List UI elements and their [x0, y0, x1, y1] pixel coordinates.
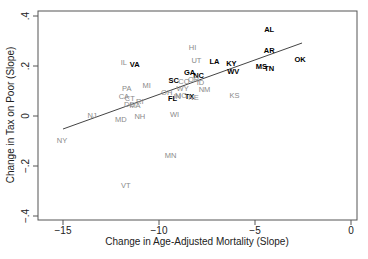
point-label-wi: WI	[170, 110, 179, 119]
point-label-ut: UT	[191, 56, 201, 65]
point-label-nm: NM	[199, 85, 211, 94]
point-label-nj: NJ	[87, 111, 96, 120]
y-axis: −.4−.20.2.4	[20, 11, 38, 223]
point-label-mi: MI	[143, 81, 151, 90]
point-label-oh: OH	[161, 88, 172, 97]
y-tick-label: .4	[20, 11, 31, 20]
point-label-ks: KS	[229, 91, 239, 100]
point-label-mo: MO	[175, 91, 187, 100]
point-label-ny: NY	[57, 136, 67, 145]
x-tick-label: 0	[348, 225, 354, 236]
y-tick-label: .2	[20, 61, 31, 70]
x-axis: −15−10−50	[55, 220, 355, 236]
point-label-il: IL	[121, 58, 127, 67]
point-label-al: AL	[264, 25, 274, 34]
x-tick-label: −10	[151, 225, 168, 236]
point-label-md: MD	[115, 115, 127, 124]
plot-frame	[38, 11, 357, 220]
point-label-ma: MA	[129, 101, 140, 110]
point-label-nh: NH	[134, 112, 145, 121]
x-axis-title: Change in Age-Adjusted Mortality (Slope)	[105, 236, 288, 247]
point-label-va: VA	[130, 60, 140, 69]
y-tick-label: 0	[20, 113, 31, 119]
point-label-hi: HI	[189, 43, 197, 52]
point-label-tn: TN	[264, 64, 274, 73]
point-label-mn: MN	[165, 151, 177, 160]
y-tick-label: −.4	[20, 208, 31, 223]
x-tick-label: −5	[249, 225, 261, 236]
point-label-vt: VT	[121, 181, 131, 190]
point-label-ar: AR	[264, 46, 275, 55]
y-tick-label: −.2	[20, 158, 31, 173]
point-label-wv: WV	[227, 67, 239, 76]
point-label-or: OR	[188, 75, 200, 84]
point-label-la: LA	[209, 57, 220, 66]
scatter-chart: −.4−.20.2.4 −15−10−50 ALAROKMSTNKYWVLAGA…	[0, 0, 368, 259]
point-label-ok: OK	[294, 55, 306, 64]
x-tick-label: −15	[55, 225, 72, 236]
point-label-ne: NE	[188, 93, 198, 102]
y-axis-title: Change in Tax on Poor (Slope)	[5, 47, 16, 184]
